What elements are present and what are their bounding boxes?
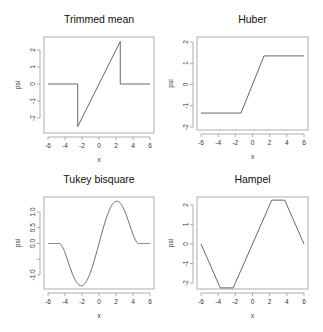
- y-tick-label: -2: [182, 280, 189, 286]
- x-tick-label: 2: [114, 298, 118, 305]
- panel-huber: Huber-6-4-20246-2-1012xpsi: [167, 13, 308, 160]
- y-tick-label: 0: [182, 242, 189, 246]
- x-tick-label: -2: [232, 139, 238, 146]
- psi-curve: [48, 201, 150, 285]
- x-tick-label: 4: [285, 139, 289, 146]
- y-tick-label: 2: [29, 48, 36, 52]
- chart-canvas: Trimmed mean-6-4-20246-2-1012xpsiHuber-6…: [0, 0, 323, 332]
- y-tick-label: 1: [182, 222, 189, 226]
- x-tick-label: 2: [268, 298, 272, 305]
- x-tick-label: -2: [79, 298, 85, 305]
- panel-title: Hampel: [234, 173, 270, 185]
- y-tick-label: 0: [182, 82, 189, 86]
- x-tick-label: 6: [302, 298, 306, 305]
- psi-curve: [48, 42, 150, 127]
- y-tick-label: 0: [29, 82, 36, 86]
- panel-title: Huber: [238, 13, 267, 25]
- y-tick-label: -2: [182, 124, 189, 130]
- panel-title: Tukey bisquare: [63, 173, 135, 185]
- x-tick-label: 6: [148, 298, 152, 305]
- panel-hampel: Hampel-6-4-20246-2-1012xpsi: [167, 173, 308, 319]
- psi-curve: [201, 56, 304, 113]
- x-tick-label: -6: [45, 142, 51, 149]
- y-axis-label: psi: [167, 239, 175, 247]
- y-axis-label: psi: [14, 239, 22, 247]
- x-axis-label: x: [251, 153, 255, 160]
- panel-trimmed-mean: Trimmed mean-6-4-20246-2-1012xpsi: [14, 13, 154, 163]
- x-tick-label: 6: [148, 142, 152, 149]
- x-tick-label: 0: [97, 298, 101, 305]
- psi-curve: [201, 200, 304, 288]
- y-axis-label: psi: [14, 81, 22, 89]
- y-tick-label: 0.0: [29, 239, 36, 248]
- x-axis-label: x: [97, 156, 101, 163]
- y-tick-label: 1.0: [29, 207, 36, 216]
- x-axis-label: x: [97, 312, 101, 319]
- x-tick-label: -6: [198, 139, 204, 146]
- y-tick-label: 2: [182, 40, 189, 44]
- x-tick-label: -2: [79, 142, 85, 149]
- x-axis-label: x: [251, 312, 255, 319]
- x-tick-label: -6: [198, 298, 204, 305]
- y-tick-label: -2: [29, 115, 36, 121]
- x-tick-label: -2: [232, 298, 238, 305]
- y-tick-label: 2: [182, 203, 189, 207]
- x-tick-label: -4: [62, 298, 68, 305]
- x-tick-label: -4: [62, 142, 68, 149]
- y-tick-label: -1.0: [29, 269, 36, 281]
- x-tick-label: -6: [45, 298, 51, 305]
- x-tick-label: 0: [251, 298, 255, 305]
- x-tick-label: -4: [215, 139, 221, 146]
- x-tick-label: 4: [131, 142, 135, 149]
- y-tick-label: -1: [182, 102, 189, 108]
- x-tick-label: 4: [131, 298, 135, 305]
- y-tick-label: -1: [182, 260, 189, 266]
- x-tick-label: 0: [97, 142, 101, 149]
- y-tick-label: 1: [29, 65, 36, 69]
- x-tick-label: -4: [215, 298, 221, 305]
- y-axis-label: psi: [167, 79, 175, 87]
- y-tick-label: -1: [29, 98, 36, 104]
- x-tick-label: 4: [285, 298, 289, 305]
- x-tick-label: 2: [114, 142, 118, 149]
- x-tick-label: 6: [302, 139, 306, 146]
- x-tick-label: 0: [251, 139, 255, 146]
- panel-title: Trimmed mean: [64, 13, 134, 25]
- x-tick-label: 2: [268, 139, 272, 146]
- panel-tukey-bisquare: Tukey bisquare-6-4-20246-1.00.00.51.0xps…: [14, 173, 154, 319]
- y-tick-label: 0.5: [29, 223, 36, 232]
- y-tick-label: 1: [182, 61, 189, 65]
